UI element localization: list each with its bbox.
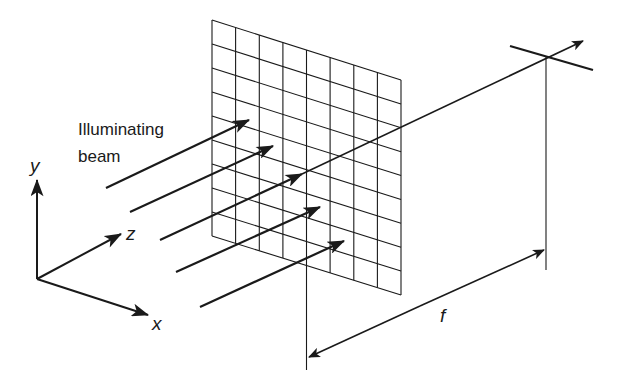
- focal-plane-line: [510, 46, 593, 70]
- y-axis-label: y: [28, 155, 41, 176]
- focal-length-dimension-arrow-back: [309, 306, 420, 357]
- beam-label-line2: beam: [78, 147, 121, 166]
- z-axis-label: z: [125, 223, 136, 244]
- diagram-canvas: Illuminating beam y z x f: [0, 0, 621, 380]
- beam-arrow-2: [130, 146, 273, 212]
- x-axis-arrow: [37, 279, 148, 315]
- optical-axis-arrow: [302, 41, 583, 174]
- z-axis-arrow: [37, 234, 121, 279]
- x-axis-label: x: [151, 313, 163, 334]
- illuminating-beams: [106, 120, 344, 307]
- beam-label-line1: Illuminating: [78, 120, 164, 139]
- focal-length-label: f: [440, 305, 447, 326]
- coordinate-axes: [37, 180, 148, 315]
- object-grid: [212, 20, 401, 295]
- focal-length-dimension-arrow: [420, 250, 544, 306]
- beam-arrow-3: [160, 174, 302, 240]
- diagram-svg: Illuminating beam y z x f: [0, 0, 621, 380]
